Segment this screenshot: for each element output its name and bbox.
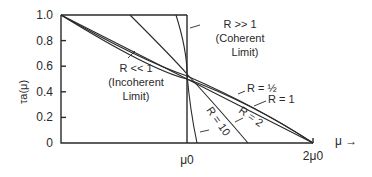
x-tick-mu0: μ0: [180, 153, 194, 167]
y-tick-0.8: 0.8: [36, 34, 53, 48]
pointer-r-ten: [200, 130, 209, 132]
y-tick-0.4: 0.4: [36, 85, 53, 99]
x-axis-label: μ →: [335, 134, 357, 148]
y-ticks: [61, 41, 66, 118]
x-tick-2mu0: 2μ0: [303, 149, 324, 163]
coherent-label-2: (Coherent: [216, 32, 265, 44]
coherent-label-1: R >> 1: [223, 18, 256, 30]
coherent-label-3: Limit): [232, 46, 259, 58]
pointer-coherent: [190, 25, 200, 28]
y-tick-1.0: 1.0: [36, 8, 53, 22]
r-one-label: R = 1: [268, 93, 295, 105]
y-tick-0: 0: [46, 136, 53, 150]
incoherent-label-2: (Incoherent: [108, 76, 164, 88]
y-tick-0.6: 0.6: [36, 59, 53, 73]
incoherent-label-3: Limit): [123, 90, 150, 102]
pointer-r-one: [254, 101, 266, 106]
y-axis-label: τa(μ): [17, 80, 29, 104]
incoherent-label-1: R << 1: [119, 62, 152, 74]
transmission-diagram: 1.0 0.8 0.6 0.4 0.2 0 τa(μ) μ0 2μ0 μ → R…: [0, 0, 372, 177]
y-tick-0.2: 0.2: [36, 110, 53, 124]
pointer-r-half: [238, 91, 245, 94]
pointer-r-two: [235, 118, 243, 122]
